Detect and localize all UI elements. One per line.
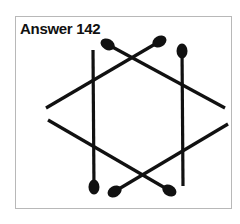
matchstick-head: [105, 183, 124, 200]
matchstick: [88, 50, 99, 195]
matchstick-stem: [182, 48, 183, 186]
matchstick-stem: [93, 50, 94, 190]
matchstick-head: [160, 182, 178, 199]
matchstick-head: [176, 43, 187, 58]
matchstick-stem: [46, 40, 162, 108]
matchstick-head: [88, 179, 99, 194]
matchstick: [98, 36, 225, 108]
matchstick-head: [98, 36, 116, 53]
matchstick-stem: [48, 120, 172, 192]
matchstick-stem: [112, 124, 228, 193]
matchstick-head: [150, 33, 169, 50]
matchstick: [176, 43, 187, 186]
matchstick-stem: [105, 43, 225, 108]
matchstick-diagram: [0, 0, 240, 224]
